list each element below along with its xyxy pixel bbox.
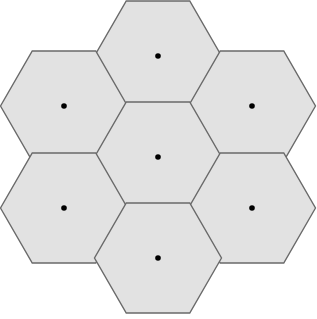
center-dot-upper-right xyxy=(249,103,255,109)
hexagon-canvas xyxy=(0,0,317,319)
center-dot-lower-right xyxy=(249,205,255,211)
center-dot-top xyxy=(155,53,161,59)
center-dot-upper-left xyxy=(61,103,67,109)
center-dot-lower-left xyxy=(61,205,67,211)
center-dot-bottom xyxy=(155,255,161,261)
hexagon-tiling-figure xyxy=(0,0,317,319)
center-dot-center xyxy=(155,154,161,160)
